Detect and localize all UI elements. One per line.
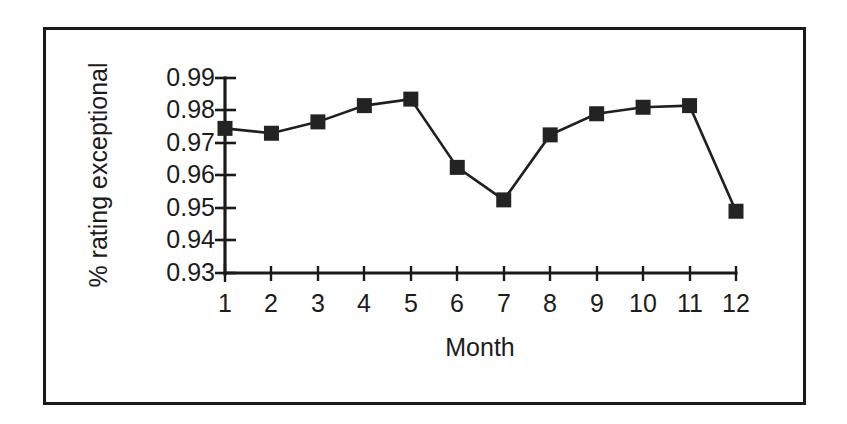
data-point-month-2 [264,126,279,141]
series-line-rating-exceptional [225,99,736,211]
y-tick-label-095: 0.95 [166,193,215,221]
x-tick-label-8: 8 [543,289,557,317]
x-tick-label-5: 5 [404,289,418,317]
x-axis-title: Month [445,333,514,361]
x-tick-label-6: 6 [450,289,464,317]
data-point-month-9 [589,106,604,121]
data-point-month-3 [310,114,325,129]
y-tick-label-098: 0.98 [166,95,215,123]
y-tick-label-097: 0.97 [166,128,215,156]
line-chart: % rating exceptional 0.99 0.98 0.97 0.96… [0,0,847,424]
x-tick-label-7: 7 [497,289,511,317]
y-tick-label-093: 0.93 [166,258,215,286]
y-tick-label-094: 0.94 [166,225,215,253]
y-axis-title: % rating exceptional [84,62,112,287]
data-point-month-1 [218,121,233,136]
x-tick-label-9: 9 [590,289,604,317]
data-point-month-6 [450,160,465,175]
y-tick-label-099: 0.99 [166,63,215,91]
data-point-month-12 [729,204,744,219]
data-point-month-5 [403,92,418,107]
x-tick-label-2: 2 [264,289,278,317]
x-tick-label-3: 3 [311,289,325,317]
x-tick-label-10: 10 [629,289,657,317]
x-tick-label-4: 4 [357,289,371,317]
data-point-month-4 [357,98,372,113]
data-point-month-11 [682,98,697,113]
x-tick-label-12: 12 [722,289,750,317]
series-markers-group [218,92,744,219]
figure-root: % rating exceptional 0.99 0.98 0.97 0.96… [0,0,847,424]
data-point-month-8 [543,127,558,142]
x-tick-label-1: 1 [218,289,232,317]
data-point-month-7 [496,192,511,207]
x-tick-label-11: 11 [677,289,703,317]
y-tick-label-096: 0.96 [166,160,215,188]
data-point-month-10 [636,100,651,115]
